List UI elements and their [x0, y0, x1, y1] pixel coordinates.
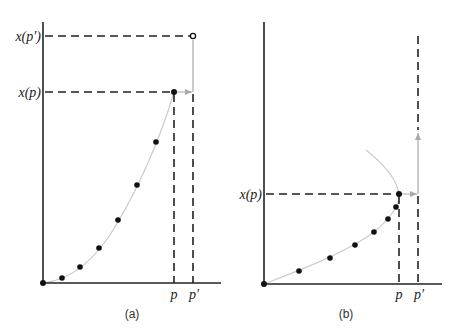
- panel-a-open-point: [190, 33, 195, 38]
- panel-a-label-p-prime: p′: [188, 287, 200, 302]
- panel-a-label-xp: x(p): [17, 85, 41, 101]
- diagram-canvas: x(p′) x(p) p p′ (a): [0, 0, 460, 335]
- panel-a: x(p′) x(p) p p′ (a): [14, 22, 221, 321]
- panel-a-label-p: p: [170, 287, 178, 302]
- panel-a-label-xp-prime: x(p′): [14, 29, 41, 45]
- panel-b-label-xp: x(p): [238, 187, 262, 203]
- panel-b-label-p-prime: p′: [413, 287, 425, 302]
- panel-b-caption: (b): [339, 307, 354, 321]
- panel-b: x(p) p p′ (b): [238, 22, 442, 321]
- panel-b-label-p: p: [395, 287, 403, 302]
- panel-a-points: [40, 89, 177, 286]
- panel-b-curve: [264, 150, 399, 284]
- panel-b-points: [261, 191, 402, 287]
- panel-a-curve: [43, 92, 174, 283]
- panel-a-caption: (a): [125, 307, 140, 321]
